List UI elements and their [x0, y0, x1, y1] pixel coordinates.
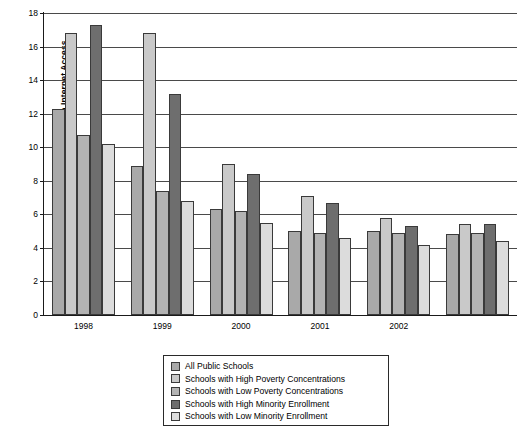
- y-tick-label: 6: [33, 210, 38, 219]
- bar: [459, 224, 472, 315]
- gridline: [44, 13, 517, 14]
- y-tick-mark: [40, 13, 44, 14]
- y-tick-label: 10: [29, 143, 38, 152]
- legend-item: Schools with Low Minority Enrollment: [171, 410, 388, 423]
- gridline: [44, 147, 517, 148]
- legend-item: All Public Schools: [171, 360, 388, 373]
- y-tick-mark: [40, 248, 44, 249]
- bar: [65, 33, 78, 315]
- gridline: [44, 80, 517, 81]
- bar: [90, 25, 103, 315]
- y-tick-mark: [40, 80, 44, 81]
- legend-swatch-icon: [171, 362, 180, 371]
- bar: [301, 196, 314, 315]
- bar: [102, 144, 115, 315]
- y-tick-label: 2: [33, 277, 38, 286]
- legend-item: Schools with Low Poverty Concentrations: [171, 385, 388, 398]
- bar: [52, 109, 65, 315]
- bar: [260, 223, 273, 315]
- y-tick-mark: [40, 214, 44, 215]
- legend-swatch-icon: [171, 374, 180, 383]
- bar: [156, 191, 169, 315]
- legend-swatch-icon: [171, 412, 180, 421]
- y-tick-mark: [40, 181, 44, 182]
- gridline: [44, 47, 517, 48]
- bar: [235, 211, 248, 315]
- bar: [131, 166, 144, 315]
- bar: [326, 203, 339, 315]
- bar: [169, 94, 182, 315]
- y-tick-label: 4: [33, 244, 38, 253]
- chart-legend: All Public SchoolsSchools with High Pove…: [163, 355, 389, 426]
- y-tick-mark: [40, 47, 44, 48]
- bar: [484, 224, 497, 315]
- x-axis-label: 2000: [232, 321, 251, 331]
- x-axis-label: 1998: [74, 321, 93, 331]
- bar: [288, 231, 301, 315]
- y-tick-mark: [40, 147, 44, 148]
- bar: [446, 234, 459, 315]
- gridline: [44, 114, 517, 115]
- legend-item: Schools with High Poverty Concentrations: [171, 373, 388, 386]
- legend-swatch-icon: [171, 387, 180, 396]
- y-tick-mark: [40, 281, 44, 282]
- plot-area: 024681012141618: [44, 13, 517, 315]
- legend-label: Schools with Low Poverty Concentrations: [185, 387, 343, 396]
- bar: [77, 135, 90, 315]
- bar: [418, 245, 431, 315]
- bar: [496, 241, 509, 315]
- y-tick-label: 0: [33, 311, 38, 320]
- bar: [392, 233, 405, 315]
- legend-label: Schools with Low Minority Enrollment: [185, 412, 327, 421]
- bar: [314, 233, 327, 315]
- y-tick-label: 18: [29, 9, 38, 18]
- y-tick-mark: [40, 315, 44, 316]
- x-axis-label: 2001: [310, 321, 329, 331]
- bar: [247, 174, 260, 315]
- legend-swatch-icon: [171, 400, 180, 409]
- bar: [143, 33, 156, 315]
- bar: [222, 164, 235, 315]
- x-axis-label: 1999: [153, 321, 172, 331]
- x-axis-label: 2002: [389, 321, 408, 331]
- gridline: [44, 181, 517, 182]
- bar: [405, 226, 418, 315]
- bar: [339, 238, 352, 315]
- legend-label: Schools with High Minority Enrollment: [185, 400, 329, 409]
- x-axis-line: [43, 315, 517, 316]
- bar: [181, 201, 194, 315]
- bar: [380, 218, 393, 315]
- y-tick-label: 16: [29, 42, 38, 51]
- bar: [210, 209, 223, 315]
- legend-item: Schools with High Minority Enrollment: [171, 398, 388, 411]
- gridline: [44, 214, 517, 215]
- legend-label: All Public Schools: [185, 362, 253, 371]
- y-tick-label: 12: [29, 109, 38, 118]
- y-tick-label: 8: [33, 177, 38, 186]
- bar: [471, 233, 484, 315]
- legend-label: Schools with High Poverty Concentrations: [185, 375, 345, 384]
- bar: [367, 231, 380, 315]
- y-tick-label: 14: [29, 76, 38, 85]
- y-tick-mark: [40, 114, 44, 115]
- bar-chart: Number of Students per Computer with Int…: [0, 0, 520, 426]
